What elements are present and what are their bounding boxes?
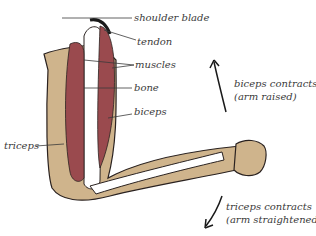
arrow-up-icon <box>214 62 226 112</box>
arm-muscle-diagram: shoulder blade tendon muscles bone bicep… <box>0 0 316 236</box>
annotation-arm-raised: (arm raised) <box>234 91 297 103</box>
label-shoulder-blade: shoulder blade <box>134 12 209 24</box>
label-triceps: triceps <box>4 140 39 152</box>
label-biceps: biceps <box>134 106 167 118</box>
annotation-triceps-contracts: triceps contracts <box>226 201 312 213</box>
annotation-arm-straightened: (arm straightened) <box>226 214 316 226</box>
annotation-biceps-contracts: biceps contracts <box>234 78 316 90</box>
label-bone: bone <box>134 82 159 94</box>
arrow-down-icon <box>206 196 222 226</box>
triceps-muscle <box>66 42 85 181</box>
hand <box>234 140 266 175</box>
label-tendon: tendon <box>137 36 172 48</box>
label-muscles: muscles <box>135 59 176 71</box>
